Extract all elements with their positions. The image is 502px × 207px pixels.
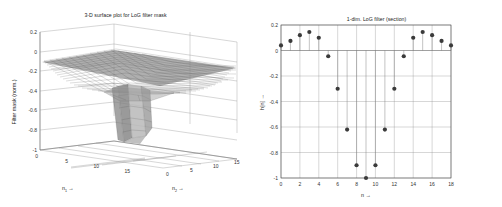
stem-y-tick-4: -0.6 (269, 124, 278, 130)
stem-y-axis-label: h[n]→ (259, 94, 265, 110)
stem-marker (383, 127, 387, 131)
z-tick-2: -0.2 (28, 68, 37, 74)
stem-x-tick-9: 18 (448, 181, 454, 187)
z-tick-1: 0 (34, 49, 37, 55)
stem-x-tick-0: 0 (280, 181, 283, 187)
stem-x-tick-5: 10 (373, 181, 379, 187)
stem-marker (373, 163, 377, 167)
stem-y-ticks: 0.2 0 -0.2 -0.4 -0.6 -0.8 -1 (269, 22, 278, 181)
surface-x-axis-label: n1→ (62, 185, 74, 193)
stem-lines (281, 32, 451, 178)
stem-marker (439, 39, 443, 43)
x-tick-1: 5 (65, 158, 68, 164)
stem-marker (288, 39, 292, 43)
surface-y-axis-label: n2→ (172, 185, 184, 193)
stem-y-tick-0: 0.2 (271, 22, 278, 28)
stem-marker (411, 36, 415, 40)
stem-marker (298, 33, 302, 37)
surface-floor-grid (40, 141, 237, 168)
stem-marker (392, 87, 396, 91)
surface-z-axis-label: Filter mask (norm.) (11, 79, 17, 124)
stem-x-tick-8: 16 (429, 181, 435, 187)
stem-y-tick-1: 0 (275, 48, 278, 54)
stem-marker (421, 30, 425, 34)
stem-x-tick-6: 12 (392, 181, 398, 187)
stem-series (279, 30, 453, 180)
stem-x-tick-4: 8 (355, 181, 358, 187)
surface-z-ticks: 0.2 0 -0.2 -0.4 -0.6 -0.8 -1 (28, 29, 37, 153)
stem-x-axis-label: n→ (361, 192, 371, 198)
stem-marker (402, 54, 406, 58)
right-plot-panel: 1-dim. LoG filter (section) (251, 0, 502, 207)
surface-plot-svg: 0.2 0 -0.2 -0.4 -0.6 -0.8 -1 0 5 10 15 0… (0, 0, 251, 207)
stem-marker (336, 87, 340, 91)
x-tick-0: 0 (35, 153, 38, 159)
stem-marker (317, 36, 321, 40)
stem-x-tick-7: 14 (410, 181, 416, 187)
y-tick-0: 0 (166, 171, 169, 177)
y-tick-3: 15 (234, 159, 240, 165)
stem-x-ticks: 0 2 4 6 8 10 12 14 16 18 (280, 181, 454, 187)
left-plot-panel: 3-D surface plot for LoG filter mask (0, 0, 251, 207)
left-plot-title: 3-D surface plot for LoG filter mask (0, 12, 251, 18)
surface-y-ticks: 0 5 10 15 (166, 159, 240, 177)
stem-marker (364, 176, 368, 180)
right-plot-title: 1-dim. LoG filter (section) (251, 16, 502, 22)
z-tick-3: -0.4 (28, 88, 37, 94)
figure-canvas: 3-D surface plot for LoG filter mask (0, 0, 502, 207)
x-tick-3: 15 (124, 168, 130, 174)
z-tick-0: 0.2 (30, 29, 37, 35)
stem-x-tick-1: 2 (299, 181, 302, 187)
stem-plot-svg: 0.2 0 -0.2 -0.4 -0.6 -0.8 -1 0 2 4 6 8 1… (251, 0, 502, 207)
z-tick-4: -0.6 (28, 107, 37, 113)
stem-y-tick-2: -0.2 (269, 73, 278, 79)
stem-marker (345, 127, 349, 131)
stem-y-tick-6: -1 (274, 175, 279, 181)
stem-marker (354, 163, 358, 167)
stem-marker (307, 30, 311, 34)
stem-marker (430, 33, 434, 37)
stem-y-tick-3: -0.4 (269, 99, 278, 105)
stem-marker (449, 43, 453, 47)
y-tick-2: 10 (213, 163, 219, 169)
y-tick-1: 5 (190, 167, 193, 173)
stem-marker (326, 54, 330, 58)
stem-x-tick-2: 4 (317, 181, 320, 187)
x-tick-2: 10 (93, 163, 99, 169)
stem-x-tick-3: 6 (336, 181, 339, 187)
stem-marker (279, 43, 283, 47)
z-tick-5: -0.8 (28, 127, 37, 133)
stem-y-tick-5: -0.8 (269, 150, 278, 156)
